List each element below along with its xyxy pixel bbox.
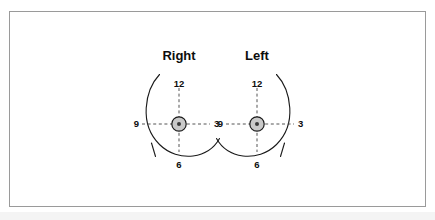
right-nipple <box>177 122 181 126</box>
left-label-6: 6 <box>254 159 259 170</box>
left-label-9: 9 <box>218 118 223 129</box>
panel-right: Right 12 3 6 9 <box>134 48 220 170</box>
panel-right-title: Right <box>162 48 196 63</box>
left-nipple <box>255 122 259 126</box>
right-label-6: 6 <box>176 159 181 170</box>
left-label-12: 12 <box>252 78 263 89</box>
right-label-12: 12 <box>174 78 185 89</box>
right-inframammary-tick <box>152 143 156 157</box>
left-label-3: 3 <box>298 118 303 129</box>
panel-left-title: Left <box>245 48 270 63</box>
panel-left: Left 12 3 6 9 <box>217 48 304 170</box>
right-label-9: 9 <box>134 118 139 129</box>
left-inframammary-tick <box>281 143 285 157</box>
page-canvas: Right 12 3 6 9 Left <box>0 0 435 220</box>
breast-clock-diagram: Right 12 3 6 9 Left <box>0 0 435 220</box>
